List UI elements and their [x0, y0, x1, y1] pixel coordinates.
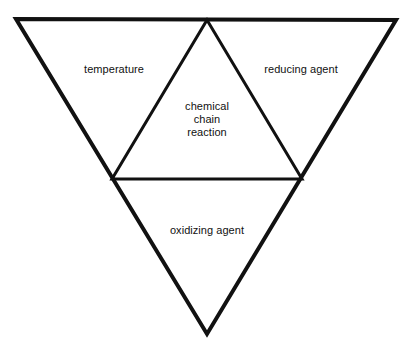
label-oxidizing-agent: oxidizing agent	[170, 224, 244, 237]
label-chemical-chain-reaction: chemical chain reaction	[185, 100, 229, 139]
fire-tetrahedron-diagram: temperature reducing agent chemical chai…	[0, 0, 413, 352]
label-reducing-agent: reducing agent	[264, 63, 337, 76]
label-chemical-chain-reaction-line-3: reaction	[185, 126, 229, 139]
label-chemical-chain-reaction-line-1: chemical	[185, 100, 229, 113]
outer-triangle	[16, 19, 396, 334]
triangle-line-art	[0, 0, 413, 352]
label-chemical-chain-reaction-line-2: chain	[185, 113, 229, 126]
label-temperature: temperature	[84, 63, 144, 76]
